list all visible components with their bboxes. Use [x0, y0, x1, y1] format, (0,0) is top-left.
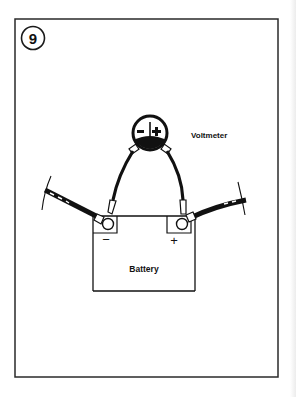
- figure-number-badge: 9: [22, 27, 45, 50]
- positive-terminal-post: [177, 219, 188, 230]
- positive-test-lead: [167, 151, 183, 200]
- battery-label: Battery: [129, 264, 159, 274]
- positive-symbol: +: [170, 233, 178, 248]
- positive-battery-cable: [186, 182, 246, 222]
- battery: − + Battery: [93, 216, 195, 291]
- figure-frame: [15, 19, 278, 377]
- meter-minus-icon: [137, 130, 144, 133]
- negative-terminal-post: [103, 219, 114, 230]
- voltmeter: [129, 116, 171, 154]
- negative-symbol: −: [102, 232, 110, 247]
- negative-battery-cable: [42, 176, 104, 224]
- figure-number: 9: [29, 30, 37, 47]
- negative-test-lead: [113, 151, 133, 200]
- voltmeter-label: Voltmeter: [191, 131, 227, 140]
- voltmeter-battery-diagram: 9 Voltmeter − + Battery: [0, 0, 296, 397]
